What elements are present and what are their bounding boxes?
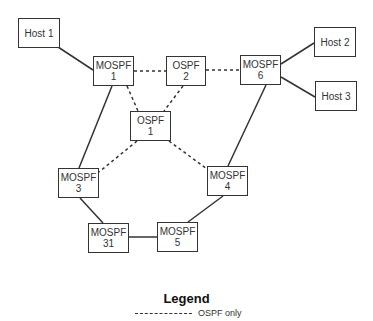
link-mospf1-ospf1 [127, 86, 138, 111]
node-mospf4: MOSPF4 [207, 166, 248, 196]
node-ospf2: OSPF2 [166, 56, 206, 86]
link-host1-mospf1 [58, 47, 93, 70]
node-label-number: 4 [225, 181, 231, 192]
node-label-type: Host 2 [321, 37, 350, 48]
link-mospf6-mospf4 [228, 85, 266, 166]
node-host2: Host 2 [314, 27, 356, 57]
dashed-line-sample [135, 313, 192, 314]
node-label-type: MOSPF [96, 60, 132, 71]
node-mospf1: MOSPF1 [93, 56, 134, 86]
node-label-type: OSPF [137, 115, 164, 126]
node-label-number: 1 [111, 71, 117, 82]
node-label-type: MOSPF [243, 59, 279, 70]
link-mospf3-mospf31 [80, 198, 103, 223]
legend-item-label: OSPF only [198, 308, 242, 318]
legend-title: Legend [0, 291, 373, 306]
node-label-type: MOSPF [91, 227, 127, 238]
node-label-type: Host 3 [322, 91, 351, 102]
node-mospf31: MOSPF31 [88, 223, 129, 253]
node-mospf5: MOSPF5 [157, 222, 198, 252]
link-ospf2-ospf1 [164, 86, 183, 111]
link-ospf1-mospf4 [169, 141, 207, 169]
node-label-type: MOSPF [210, 170, 246, 181]
node-mospf6: MOSPF6 [240, 55, 281, 85]
node-label-type: OSPF [172, 60, 199, 71]
node-host3: Host 3 [315, 81, 357, 111]
node-label-type: MOSPF [160, 226, 196, 237]
node-label-number: 3 [76, 183, 82, 194]
legend-item-ospf-only: OSPF only [135, 308, 242, 318]
link-mospf1-mospf3 [79, 86, 112, 168]
node-label-number: 1 [148, 126, 154, 137]
link-ospf1-mospf3 [99, 141, 137, 172]
node-label-number: 6 [258, 70, 264, 81]
node-label-type: MOSPF [61, 172, 97, 183]
node-host1: Host 1 [18, 18, 60, 48]
node-ospf1: OSPF1 [130, 111, 171, 141]
link-mospf4-mospf5 [188, 196, 223, 222]
node-label-number: 2 [183, 71, 189, 82]
node-mospf3: MOSPF3 [58, 168, 99, 198]
node-label-number: 5 [175, 237, 181, 248]
link-mospf6-host2 [281, 43, 314, 64]
node-label-type: Host 1 [25, 28, 54, 39]
link-mospf6-host3 [281, 77, 315, 97]
node-label-number: 31 [103, 238, 114, 249]
